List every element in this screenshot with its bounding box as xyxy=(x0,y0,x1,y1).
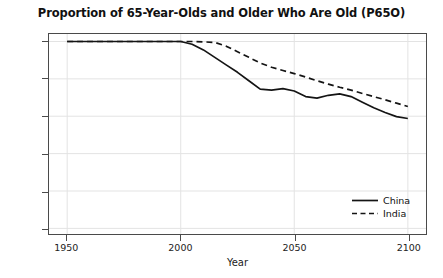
legend-swatch-china xyxy=(352,196,378,205)
legend-item: China xyxy=(352,194,410,207)
x-tick-mark xyxy=(66,235,67,241)
legend-swatch-india xyxy=(352,209,378,218)
legend-label: India xyxy=(383,207,406,220)
y-tick-mark xyxy=(42,229,48,230)
x-tick-label: 1950 xyxy=(54,242,78,253)
y-tick-mark xyxy=(42,116,48,117)
x-tick-mark xyxy=(295,235,296,241)
x-tick-label: 2050 xyxy=(282,242,306,253)
x-tick-label: 2100 xyxy=(397,242,421,253)
legend-label: China xyxy=(383,194,410,207)
chart-figure: Proportion of 65-Year-Olds and Older Who… xyxy=(0,0,443,278)
y-tick-mark xyxy=(42,41,48,42)
x-tick-mark xyxy=(409,235,410,241)
data-series xyxy=(67,41,408,118)
x-tick-mark xyxy=(180,235,181,241)
series-line-india xyxy=(67,41,408,106)
y-tick-mark xyxy=(42,154,48,155)
legend-item: India xyxy=(352,207,410,220)
series-line-china xyxy=(67,41,408,118)
x-tick-label: 2000 xyxy=(168,242,192,253)
x-axis-label: Year xyxy=(48,257,427,268)
y-tick-mark xyxy=(42,78,48,79)
chart-title: Proportion of 65-Year-Olds and Older Who… xyxy=(0,6,443,20)
chart-legend: ChinaIndia xyxy=(352,194,410,220)
y-tick-mark xyxy=(42,192,48,193)
